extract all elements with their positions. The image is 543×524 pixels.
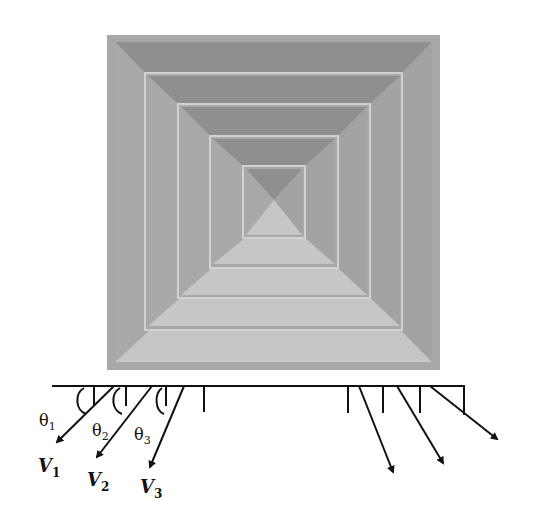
v1-label: V1 [38, 455, 60, 480]
theta2-label: θ2 [92, 421, 109, 443]
theta1-label: θ1 [39, 411, 56, 433]
velocity-labels: V1 V2 V3 [38, 455, 162, 501]
ring-1-top [115, 42, 432, 73]
right-velocity-vectors [359, 386, 497, 472]
v3-label: V3 [140, 476, 162, 501]
ring-1-bottom [115, 330, 432, 362]
theta3-label: θ3 [134, 425, 151, 447]
angle-labels: θ1 θ2 θ3 [39, 411, 151, 447]
diffuser-diagram: θ1 θ2 θ3 V1 V2 V3 [0, 0, 543, 524]
left-velocity-vectors [57, 386, 184, 467]
v2-label: V2 [87, 469, 109, 494]
diffuser-face [107, 35, 440, 370]
